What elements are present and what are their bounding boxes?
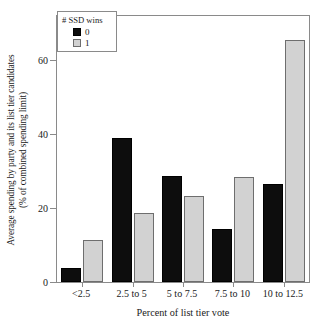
y-axis-title-line-1: Average spending by party and its list t… — [6, 5, 18, 295]
x-axis-tick-label: 7.5 to 10 — [215, 288, 250, 299]
bar-2-series-0 — [112, 138, 132, 282]
x-axis-tick-mark — [133, 282, 134, 287]
x-axis-tick-label: 5 to 7.5 — [167, 288, 197, 299]
bar-group — [107, 16, 157, 282]
bar-1-series-1 — [83, 240, 103, 282]
legend: # SSD wins 01 — [57, 11, 117, 52]
bar-chart-figure: Average spending by party and its list t… — [0, 0, 322, 331]
plot-inner: 0204060 — [57, 16, 309, 282]
legend-item-label: 0 — [85, 28, 90, 37]
x-axis-tick-label: <2.5 — [72, 288, 90, 299]
legend-swatch-icon — [73, 39, 81, 47]
plot-area: 0204060 — [56, 15, 310, 283]
x-axis-tick-mark — [183, 282, 184, 287]
y-axis-tick-label: 20 — [38, 203, 48, 214]
bar-4-series-1 — [234, 177, 254, 282]
x-axis-title: Percent of list tier vote — [56, 307, 310, 318]
legend-item-label: 1 — [85, 39, 90, 48]
x-axis-tick-mark — [284, 282, 285, 287]
bar-5-series-1 — [285, 40, 305, 282]
x-axis-tick-mark — [233, 282, 234, 287]
x-axis-tick-label: 10 to 12.5 — [263, 288, 303, 299]
y-axis-tick-mark — [50, 208, 57, 209]
bar-1-series-0 — [61, 268, 81, 282]
bar-4-series-0 — [212, 229, 232, 282]
bar-group — [259, 16, 309, 282]
legend-item-0[interactable]: 0 — [73, 27, 111, 37]
y-axis-tick-mark — [50, 282, 57, 283]
legend-swatch-icon — [73, 28, 81, 36]
y-axis-tick-label: 60 — [38, 55, 48, 66]
bar-2-series-1 — [134, 213, 154, 282]
y-axis-tick-label: 0 — [43, 277, 48, 288]
y-axis-tick-mark — [50, 60, 57, 61]
bar-group — [158, 16, 208, 282]
legend-item-1[interactable]: 1 — [73, 38, 111, 48]
y-axis-tick-mark — [50, 134, 57, 135]
x-axis-tick-label: 2.5 to 5 — [116, 288, 146, 299]
y-axis-title-line-2: (% of combined spending limit) — [18, 5, 30, 295]
bar-group — [57, 16, 107, 282]
y-axis-tick-label: 40 — [38, 129, 48, 140]
x-axis-tick-mark — [82, 282, 83, 287]
bar-group — [208, 16, 258, 282]
bar-5-series-0 — [263, 184, 283, 282]
bar-3-series-1 — [184, 196, 204, 282]
bar-3-series-0 — [162, 176, 182, 282]
legend-entries: 01 — [62, 27, 111, 48]
y-axis-title: Average spending by party and its list t… — [0, 0, 30, 300]
legend-title: # SSD wins — [62, 15, 111, 25]
